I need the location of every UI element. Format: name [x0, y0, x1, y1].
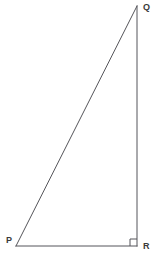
vertex-label-r: R [143, 241, 150, 251]
right-angle-marker-icon [130, 239, 137, 246]
triangle-side-pq [16, 6, 137, 246]
vertex-label-p: P [6, 235, 12, 245]
geometry-figure-canvas: P Q R [0, 0, 152, 258]
vertex-label-q: Q [143, 2, 150, 12]
triangle-diagram: P Q R [0, 0, 152, 258]
